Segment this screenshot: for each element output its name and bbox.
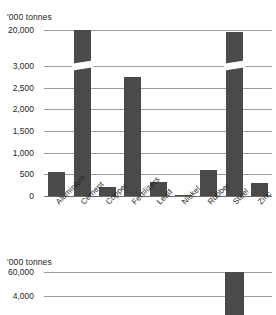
y-axis-tick-label: 1,500	[0, 126, 34, 136]
inset-y-axis-tick-label: 4,000	[0, 291, 34, 301]
inset-chart-plot-area: 60,0004,000	[44, 272, 272, 315]
bar-cement	[74, 30, 91, 196]
inset-bar-chart: '000 tonnes 60,0004,000	[0, 250, 276, 315]
y-axis-tick-label: 500	[0, 169, 34, 179]
y-axis-tick-label: 2,000	[0, 104, 34, 114]
main-bar-chart: '000 tonnes 20,0003,0002,5002,0001,5001,…	[0, 0, 276, 250]
y-axis-tick-label: 2,500	[0, 83, 34, 93]
bar-fertilizers	[124, 77, 141, 196]
inset-bar-steel	[225, 272, 244, 315]
y-axis-tick-label: 1,000	[0, 148, 34, 158]
inset-y-axis-tick-label: 60,000	[0, 267, 34, 277]
axis-break-slash	[223, 60, 245, 70]
y-axis-tick-label: 3,000	[0, 61, 34, 71]
main-chart-unit-label: '000 tonnes	[7, 12, 52, 22]
bar-steel	[226, 32, 243, 196]
inset-chart-unit-label: '000 tonnes	[7, 257, 52, 267]
main-chart-plot-area: 20,0003,0002,5002,0001,5001,0005000	[44, 30, 272, 196]
axis-break-slash	[71, 60, 93, 70]
y-axis-tick-label: 0	[0, 191, 34, 201]
y-axis-tick-label: 20,000	[0, 25, 34, 35]
